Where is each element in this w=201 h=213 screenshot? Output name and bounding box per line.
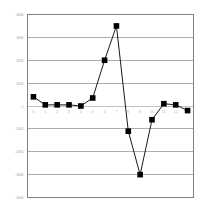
chart-canvas: 4003002001000-100-200-300-40001234567891… xyxy=(0,0,201,213)
data-point-marker xyxy=(90,95,96,101)
data-point-marker xyxy=(54,102,60,108)
data-point-marker xyxy=(125,128,131,134)
y-tick-label: 100 xyxy=(16,81,24,86)
line-chart: 4003002001000-100-200-300-40001234567891… xyxy=(0,0,201,213)
y-tick-labels: 4003002001000-100-200-300-400 xyxy=(15,12,24,200)
data-point-marker xyxy=(161,101,167,107)
x-tick-label: 10 xyxy=(150,109,155,114)
data-point-marker xyxy=(149,117,155,123)
y-tick-label: 0 xyxy=(21,104,24,109)
x-tick-label: 12 xyxy=(173,109,178,114)
data-point-marker xyxy=(185,108,191,114)
y-tick-label: -400 xyxy=(15,195,24,200)
data-point-marker xyxy=(137,172,143,178)
y-tick-label: 300 xyxy=(16,35,24,40)
data-point-marker xyxy=(31,94,37,100)
data-point-marker xyxy=(78,103,84,109)
x-tick-label: 11 xyxy=(162,109,167,114)
y-tick-label: -300 xyxy=(15,172,24,177)
y-tick-label: 400 xyxy=(16,12,24,17)
data-point-marker xyxy=(42,102,48,108)
data-point-marker xyxy=(114,23,120,29)
y-tick-label: -100 xyxy=(15,126,24,131)
data-point-marker xyxy=(173,102,179,108)
data-point-marker xyxy=(102,57,108,63)
y-tick-label: 200 xyxy=(16,58,24,63)
y-tick-label: -200 xyxy=(15,149,24,154)
data-point-marker xyxy=(66,102,72,108)
